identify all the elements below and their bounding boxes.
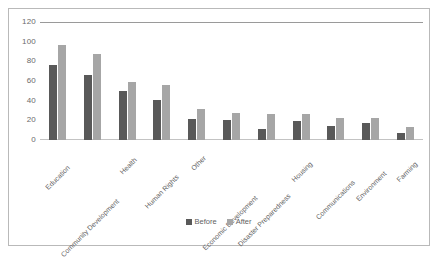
y-tick-40: 40 <box>8 97 36 105</box>
bar-group <box>249 22 284 140</box>
bar-group <box>388 22 423 140</box>
y-tick-0: 0 <box>8 136 36 144</box>
y-tick-20: 20 <box>8 116 36 124</box>
bar-after <box>371 118 379 140</box>
figure-border-right <box>429 8 430 246</box>
x-axis-label: Health <box>119 156 138 175</box>
bar-before <box>49 65 57 140</box>
y-tick-100: 100 <box>8 38 36 46</box>
bar-after <box>93 54 101 140</box>
x-axis-label: Farming <box>395 160 418 183</box>
bar-group <box>319 22 354 140</box>
legend-swatch-icon <box>227 219 233 225</box>
bar-after <box>336 118 344 140</box>
bar-before <box>327 126 335 140</box>
bar-after <box>267 114 275 140</box>
legend-label: After <box>236 218 252 226</box>
bar-group <box>110 22 145 140</box>
figure-border-top <box>8 8 429 9</box>
bar-after <box>197 109 205 140</box>
bar-before <box>223 120 231 140</box>
x-axis-label: Other <box>189 154 206 171</box>
bar-before <box>362 123 370 140</box>
x-axis-label: Environment <box>354 170 387 203</box>
x-axis-label: Communications <box>314 179 356 221</box>
legend-item-before[interactable]: Before <box>186 218 217 226</box>
chart-legend: BeforeAfter <box>0 218 437 226</box>
x-axis-label: Education <box>45 164 72 191</box>
bar-before <box>293 121 301 140</box>
bar-before <box>119 91 127 140</box>
y-tick-80: 80 <box>8 57 36 65</box>
x-axis-label: Community Development <box>60 198 121 258</box>
bar-group <box>214 22 249 140</box>
legend-swatch-icon <box>186 219 192 225</box>
bar-after <box>302 114 310 140</box>
x-axis-category-labels: EducationCommunity DevelopmentHealthHuma… <box>40 142 423 212</box>
bar-before <box>188 119 196 140</box>
bar-before <box>258 129 266 140</box>
x-axis-label: Housing <box>290 160 313 183</box>
bar-group <box>179 22 214 140</box>
plot-area <box>40 22 423 140</box>
bar-group <box>144 22 179 140</box>
bar-before <box>397 133 405 140</box>
bar-after <box>128 82 136 140</box>
bar-group <box>353 22 388 140</box>
x-axis-label: Human Rights <box>143 173 179 209</box>
bar-after <box>406 127 414 140</box>
bar-groups <box>40 22 423 140</box>
y-tick-60: 60 <box>8 77 36 85</box>
bar-before <box>153 100 161 140</box>
y-axis-tick-labels: 020406080100120 <box>8 22 36 140</box>
bar-before <box>84 75 92 140</box>
y-tick-120: 120 <box>8 18 36 26</box>
bar-group <box>284 22 319 140</box>
bar-after <box>232 113 240 140</box>
bar-after <box>162 85 170 140</box>
bar-group <box>75 22 110 140</box>
bar-after <box>58 45 66 140</box>
legend-item-after[interactable]: After <box>227 218 252 226</box>
bar-group <box>40 22 75 140</box>
legend-label: Before <box>195 218 217 226</box>
